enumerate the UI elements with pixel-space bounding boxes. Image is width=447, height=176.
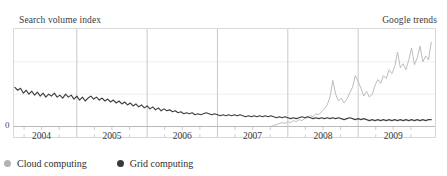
x-axis-tick-label-2006: 2006 bbox=[173, 131, 192, 141]
filled-circle-marker bbox=[4, 160, 11, 167]
legend-item-label: Cloud computing bbox=[17, 158, 87, 169]
x-axis-tick-label-2007: 2007 bbox=[243, 131, 262, 141]
filled-circle-marker bbox=[117, 160, 124, 167]
x-axis-tick-label-2009: 2009 bbox=[384, 131, 403, 141]
chart-title: Search volume index bbox=[19, 15, 101, 25]
legend-item-label: Grid computing bbox=[130, 158, 194, 169]
x-axis-tick-label-2005: 2005 bbox=[103, 131, 122, 141]
trends-line-chart bbox=[0, 0, 447, 176]
legend-item-grid-computing[interactable]: Grid computing bbox=[117, 158, 194, 169]
legend-item-cloud-computing[interactable]: Cloud computing bbox=[4, 158, 87, 169]
x-axis-tick-label-2004: 2004 bbox=[32, 131, 51, 141]
chart-legend: Cloud computingGrid computing bbox=[4, 154, 223, 172]
chart-figure: Search volume index Google trends 0 2004… bbox=[0, 0, 447, 176]
chart-source-label: Google trends bbox=[382, 15, 437, 25]
y-axis-zero-tick-label: 0 bbox=[5, 120, 10, 130]
x-axis-tick-label-2008: 2008 bbox=[314, 131, 333, 141]
